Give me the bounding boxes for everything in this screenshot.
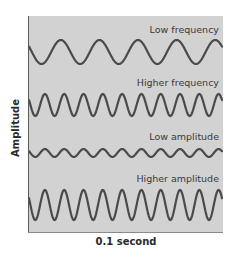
- low-amplitude-wave: [29, 149, 222, 157]
- x-axis-label: 0.1 second: [95, 236, 156, 247]
- x-axis-line: [28, 232, 223, 233]
- sound-wave-diagram: Low frequency Higher frequency Low ampli…: [0, 0, 237, 258]
- higher-amplitude-label: Higher amplitude: [136, 173, 219, 184]
- waves-layer: [0, 0, 237, 258]
- y-axis-line: [28, 16, 29, 233]
- higher-amplitude-wave: [29, 190, 222, 220]
- higher-frequency-wave: [29, 94, 222, 116]
- higher-frequency-label: Higher frequency: [137, 77, 219, 88]
- low-amplitude-label: Low amplitude: [149, 131, 219, 142]
- y-axis-label: Amplitude: [10, 99, 21, 157]
- low-frequency-label: Low frequency: [150, 24, 219, 35]
- low-frequency-wave: [29, 40, 222, 64]
